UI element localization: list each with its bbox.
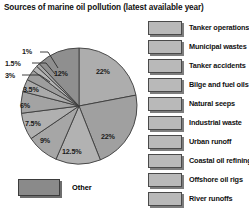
legend-label: Bilge and fuel oils xyxy=(189,80,249,89)
slice-label-tanker-operations: 22% xyxy=(96,67,110,76)
legend-swatch xyxy=(148,192,182,206)
legend: Tanker operationsMunicipal wastesTanker … xyxy=(148,20,249,210)
legend-label-other: Other xyxy=(72,183,92,192)
slice-label-tanker-accidents: 12.5% xyxy=(62,147,81,156)
slice-label-offshore-oil-rigs: 1.5% xyxy=(5,59,21,68)
legend-item[interactable]: Urban runoff xyxy=(148,134,249,153)
legend-swatch xyxy=(148,135,182,149)
slice-label-industrial-waste: 6% xyxy=(20,101,30,110)
legend-label: River runoffs xyxy=(189,194,232,203)
legend-swatch-other xyxy=(18,179,60,196)
legend-item[interactable]: Tanker accidents xyxy=(148,58,249,77)
legend-label: Natural seeps xyxy=(189,99,235,108)
legend-item-other[interactable]: Other xyxy=(18,179,138,201)
slice-label-river-runoffs: 1% xyxy=(22,47,32,56)
legend-item[interactable]: Industrial waste xyxy=(148,115,249,134)
slice-label-bilge-and-fuel-oils: 9% xyxy=(40,136,50,145)
legend-label: Offshore oil rigs xyxy=(189,175,243,184)
legend-item[interactable]: Natural seeps xyxy=(148,96,249,115)
legend-label: Tanker accidents xyxy=(189,61,246,70)
legend-label: Industrial waste xyxy=(189,118,242,127)
legend-swatch xyxy=(148,97,182,111)
legend-item[interactable]: Coastal oil refining xyxy=(148,153,249,172)
slice-label-urban-runoff: 3.5% xyxy=(23,85,39,94)
legend-swatch xyxy=(148,59,182,73)
slice-label-natural-seeps: 7.5% xyxy=(25,119,41,128)
legend-item[interactable]: Offshore oil rigs xyxy=(148,172,249,191)
legend-swatch xyxy=(148,40,182,54)
legend-swatch xyxy=(148,21,182,35)
legend-swatch xyxy=(148,116,182,130)
legend-item[interactable]: Municipal wastes xyxy=(148,39,249,58)
legend-item[interactable]: River runoffs xyxy=(148,191,249,210)
legend-label: Urban runoff xyxy=(189,137,231,146)
page-title: Sources of marine oil pollution (latest … xyxy=(4,3,204,12)
legend-label: Tanker operations xyxy=(189,23,249,32)
legend-item[interactable]: Bilge and fuel oils xyxy=(148,77,249,96)
slice-label-other: 12% xyxy=(54,69,68,78)
legend-item[interactable]: Tanker operations xyxy=(148,20,249,39)
legend-swatch xyxy=(148,173,182,187)
legend-label: Coastal oil refining xyxy=(189,156,249,165)
slice-label-municipal-wastes: 22% xyxy=(101,132,115,141)
slice-label-coastal-oil-refining: 3% xyxy=(5,71,15,80)
legend-swatch xyxy=(148,78,182,92)
legend-swatch xyxy=(148,154,182,168)
legend-label: Municipal wastes xyxy=(189,42,247,51)
